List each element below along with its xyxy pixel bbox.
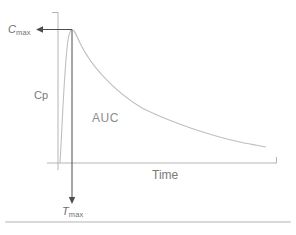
- concentration-curve: [60, 30, 266, 164]
- plot-area: [0, 0, 296, 235]
- cmax-label: Cmax: [8, 24, 31, 37]
- tmax-label: Tmax: [62, 206, 84, 219]
- cmax-arrowhead-icon: [36, 26, 43, 32]
- tmax-arrowhead-icon: [69, 197, 75, 204]
- auc-area-label: AUC: [92, 112, 119, 124]
- cmax-label-base: C: [8, 23, 16, 35]
- tmax-label-base: T: [62, 205, 69, 217]
- y-axis-label: Cp: [34, 90, 48, 101]
- tmax-label-sub: max: [69, 210, 84, 219]
- pk-curve-diagram: Cmax Tmax Cp AUC Time: [0, 0, 296, 235]
- cmax-label-sub: max: [16, 28, 31, 37]
- x-axis-label: Time: [152, 169, 178, 181]
